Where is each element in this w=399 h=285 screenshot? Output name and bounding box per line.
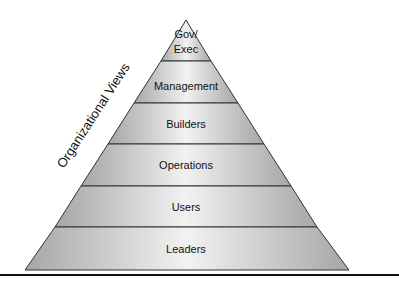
layer-label-leaders: Leaders	[166, 243, 206, 255]
layer-label-users: Users	[172, 201, 201, 213]
layer-label-management: Management	[154, 80, 218, 92]
layer-label-exec: Exec	[174, 43, 199, 55]
pyramid-diagram: Gov/ Exec Management Builders Operations…	[0, 0, 399, 285]
bottom-rule	[0, 274, 399, 276]
layer-label-operations: Operations	[159, 159, 213, 171]
layer-label-gov: Gov/	[174, 28, 198, 40]
layer-label-builders: Builders	[166, 118, 206, 130]
